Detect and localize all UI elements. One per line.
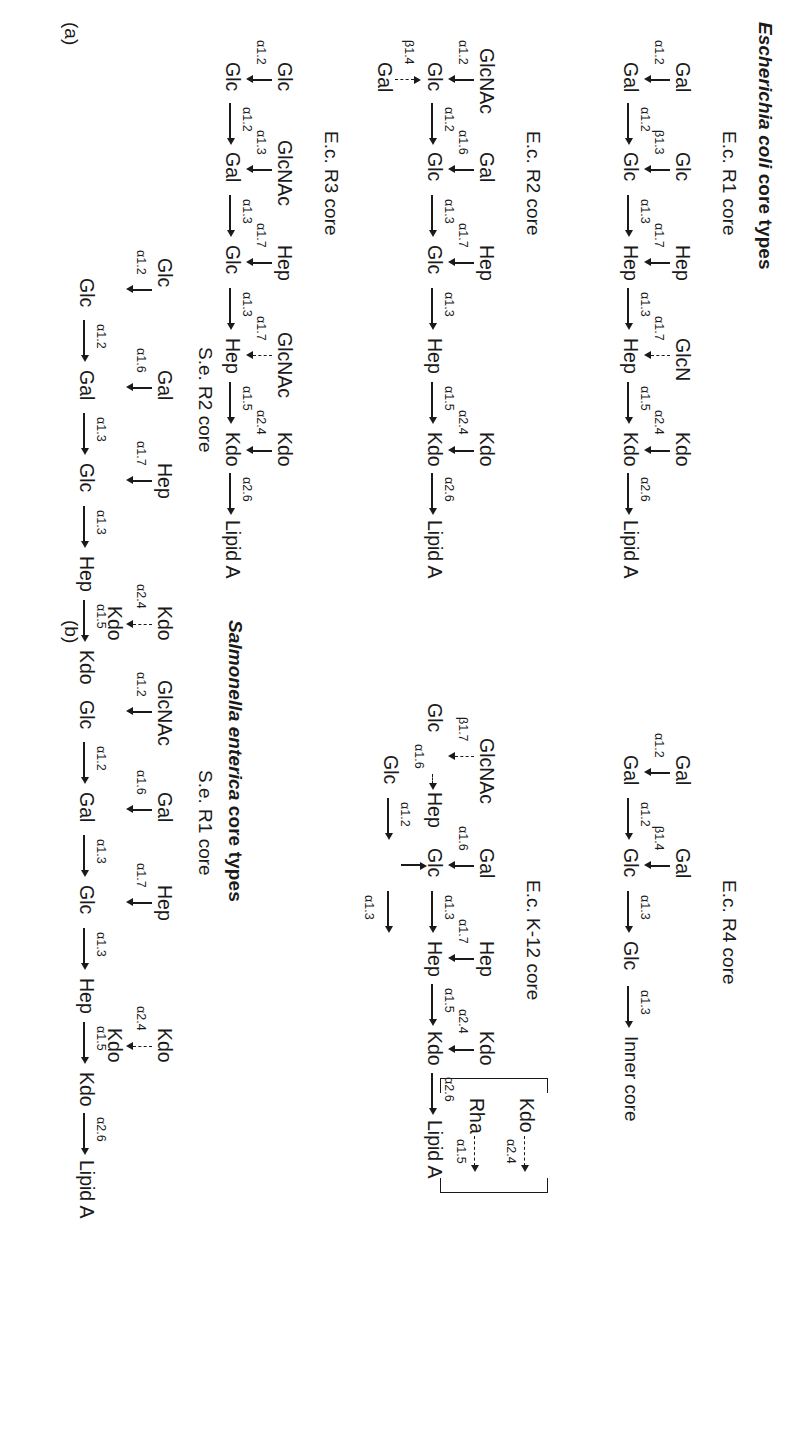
bond-label-a24-r3: α2.4	[254, 410, 268, 435]
backbone-residue-lipid-a-r2: Lipid A	[423, 520, 446, 579]
backbone-arrow-r2-1	[428, 103, 437, 145]
branch-arrow-glcnac-glc-se-r1	[126, 707, 152, 716]
bond-label-bb-k12-a15: α1.5	[442, 988, 456, 1013]
backbone-residue-hep-k12-1: Hep	[423, 941, 446, 977]
bond-label-b14-r4: β1.4	[652, 826, 666, 851]
residue-hep-se-r2-top: Hep	[153, 463, 176, 499]
backbone-arrow-k12-5	[428, 1073, 437, 1115]
residue-gal: Gal	[671, 62, 694, 92]
bond-label-bb-r3-a12: α1.2	[240, 107, 254, 132]
backbone-arrow-k12-6	[384, 891, 393, 933]
residue-rha-bracket: Rha	[465, 1098, 488, 1134]
backbone-arrow-4	[624, 382, 633, 424]
backbone-residue-kdo-k12: Kdo	[423, 1031, 446, 1066]
branch-arrow-hep-hep	[644, 258, 670, 267]
residue-gal-r2: Gal	[475, 152, 498, 182]
bracket-arrow-rha	[470, 1136, 479, 1172]
backbone-residue-gal-se-r2: Gal	[75, 370, 98, 400]
bond-label-b13: β1.3	[652, 130, 666, 155]
bond-label-bb-se-r2-a12: α1.2	[94, 324, 108, 349]
core-title-ec-k12: E.c. K-12 core	[522, 880, 544, 1000]
branch-arrow-kdo-kdo-k12	[448, 1045, 474, 1054]
backbone-arrow-se-r2-4	[80, 600, 89, 642]
backbone-arrow-r3-3	[226, 288, 235, 330]
backbone-arrow-se-r1-4	[80, 1022, 89, 1064]
bond-label-bb-k12-a13-1: α1.3	[442, 895, 456, 920]
backbone-arrow-se-r1-5	[80, 1113, 89, 1155]
bond-label-bb-r4-a13-2: α1.3	[638, 990, 652, 1015]
bond-label-a17: α1.7	[652, 223, 666, 248]
branch-arrow-hep-glcn	[644, 351, 670, 360]
residue-glcnac-se-r1: GlcNAc	[153, 680, 176, 746]
residue-glcnac-r3-top: GlcNAc	[273, 140, 296, 206]
panel-b-title: Salmonella enterica core types	[224, 620, 246, 902]
backbone-residue-lipid-a-k12: Lipid A	[423, 1120, 446, 1179]
bond-label-a16-r2: α1.6	[456, 130, 470, 155]
backbone-residue-lipid-a: Lipid A	[619, 520, 642, 579]
backbone-arrow-r2-5	[428, 473, 437, 515]
branch-arrow-hep-hep-se-r1	[126, 898, 152, 907]
branch-arrow-kdo-kdo-r3	[246, 446, 272, 455]
backbone-arrow-r4-3	[624, 986, 633, 1028]
branch-arrow-glc-glc-r3	[246, 75, 272, 84]
bond-label-bb-se-r1-a13-2: α1.3	[94, 932, 108, 957]
bond-label-a24-r2: α2.4	[456, 410, 470, 435]
backbone-arrow-3	[624, 288, 633, 330]
residue-kdo-r3-top: Kdo	[273, 432, 296, 467]
bond-label-bb-r2-a15: α1.5	[442, 386, 456, 411]
bond-label-a12-r3: α1.2	[254, 40, 268, 65]
bond-label-a17-glcnac-r3: α1.7	[254, 316, 268, 341]
bond-label-bb-k12-a12: α1.2	[398, 802, 412, 827]
backbone-residue-glc-r2-2: Glc	[423, 152, 446, 181]
bond-label-b17-k12: β1.7	[456, 717, 470, 742]
core-title-ec-r4: E.c. R4 core	[718, 880, 740, 985]
backbone-residue-kdo-se-r1: Kdo	[75, 1072, 98, 1107]
backbone-arrow-2	[624, 195, 633, 237]
bond-label-bb-a12: α1.2	[638, 107, 652, 132]
bond-label-a24-k12: α2.4	[456, 1009, 470, 1034]
core-title-se-r1: S.e. R1 core	[194, 770, 216, 876]
residue-kdo-branch: Kdo	[671, 432, 694, 467]
branch-arrow-gal-gal	[644, 75, 670, 84]
branch-arrow-kdo-kdo-se-r1-dashed	[126, 1042, 152, 1051]
panel-a-title-italic: Escherichia coli	[755, 22, 776, 168]
residue-gal-k12: Gal	[475, 848, 498, 878]
backbone-residue-glc-r4-2: Glc	[619, 941, 642, 970]
backbone-residue-kdo-r3: Kdo	[221, 432, 244, 467]
backbone-arrow-k12-3	[428, 891, 437, 933]
bond-label-bb-a13-2: α1.3	[638, 292, 652, 317]
backbone-arrow-se-r2-1	[80, 320, 89, 362]
backbone-arrow-1	[624, 103, 633, 145]
branch-arrow-hep-glcnac-r3	[246, 351, 272, 360]
backbone-residue-glc-r4-1: Glc	[619, 848, 642, 877]
bond-label-bb-k12-a13-2: α1.3	[362, 895, 376, 920]
inner-core-label: Inner core	[620, 1036, 642, 1122]
backbone-residue-hep-1: Hep	[619, 245, 642, 281]
bond-label-a24: α2.4	[652, 410, 666, 435]
bond-label-bb-r3-a26: α2.6	[240, 477, 254, 502]
backbone-arrow-r2-3	[428, 288, 437, 330]
residue-glcnac-r2: GlcNAc	[475, 48, 498, 114]
residue-gal-r4-top-1: Gal	[671, 755, 694, 785]
branch-arrow-gal-gal-r4	[644, 768, 670, 777]
backbone-arrow-se-r2-3	[80, 506, 89, 548]
backbone-residue-glc-r2-3: Glc	[423, 245, 446, 274]
branch-arrow-glc-glc-se-r2	[126, 285, 152, 294]
backbone-arrow-se-r2-2	[80, 413, 89, 455]
branch-arrow-gal-glc-se-r1	[126, 805, 152, 814]
bond-label-a12-r2: α1.2	[456, 40, 470, 65]
residue-gal-r4-top-2: Gal	[671, 848, 694, 878]
backbone-arrow-r3-5	[226, 473, 235, 515]
bond-label-a12: α1.2	[652, 40, 666, 65]
backbone-arrow-r3-2	[226, 195, 235, 237]
backbone-residue-glc-r2-1: Glc	[423, 62, 446, 91]
backbone-residue-lipid-a-se-r1: Lipid A	[75, 1160, 98, 1219]
bond-label-bracket-a24: α2.4	[504, 1139, 518, 1164]
backbone-residue-glc-r3-2: Glc	[221, 245, 244, 274]
residue-kdo-se-r2-top: Kdo	[153, 606, 176, 641]
residue-kdo-branch-r2: Kdo	[475, 432, 498, 467]
backbone-arrow-k12-1	[384, 798, 393, 840]
backbone-arrow-k12-4	[428, 984, 437, 1026]
panel-b-title-rest: core types	[225, 800, 246, 901]
branch-arrow-hep-hep-r2	[448, 258, 474, 267]
